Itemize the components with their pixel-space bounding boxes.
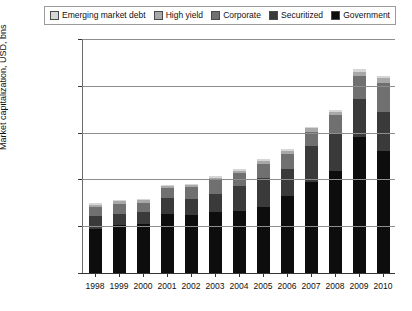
legend-item: Government	[331, 11, 390, 20]
legend-swatch-icon	[331, 11, 340, 20]
bar-segment	[257, 207, 270, 273]
stacked-bar[interactable]	[209, 176, 222, 273]
bar-segment	[113, 225, 126, 273]
bar-slot: 2001	[155, 39, 179, 273]
bar-segment	[305, 132, 318, 146]
bar-segment	[209, 194, 222, 212]
x-tick-mark	[191, 273, 192, 277]
x-tick-mark	[335, 273, 336, 277]
x-tick-mark	[119, 273, 120, 277]
bar-slot: 1998	[83, 39, 107, 273]
legend-item: Securitized	[269, 11, 323, 20]
bar-slot: 2010	[371, 39, 395, 273]
bar-slot: 2002	[179, 39, 203, 273]
bar-segment	[137, 224, 150, 273]
bar-segment	[185, 199, 198, 215]
bar-segment	[377, 151, 390, 273]
x-tick-mark	[239, 273, 240, 277]
stacked-bar[interactable]	[305, 127, 318, 273]
y-tick-mark	[78, 133, 82, 134]
gridline	[82, 39, 395, 40]
y-tick-mark	[78, 39, 82, 40]
x-tick-mark	[215, 273, 216, 277]
bar-slot: 2000	[131, 39, 155, 273]
bar-segment	[281, 169, 294, 196]
x-tick-label: 2009	[350, 282, 369, 291]
bar-slot: 2005	[251, 39, 275, 273]
legend-item: Emerging market debt	[50, 11, 146, 20]
bar-segment	[137, 212, 150, 225]
bar-slot: 2003	[203, 39, 227, 273]
y-tick-mark	[78, 273, 82, 274]
bar-segment	[137, 203, 150, 212]
bar-segment	[377, 83, 390, 112]
stacked-bar[interactable]	[377, 76, 390, 273]
chart-legend: Emerging market debtHigh yieldCorporateS…	[44, 6, 396, 25]
bar-slot: 2009	[347, 39, 371, 273]
y-tick-mark	[78, 226, 82, 227]
stacked-bar-chart: Emerging market debtHigh yieldCorporateS…	[0, 0, 412, 311]
x-tick-label: 2003	[206, 282, 225, 291]
x-tick-label: 2007	[302, 282, 321, 291]
bar-segment	[281, 154, 294, 169]
bar-slot: 2008	[323, 39, 347, 273]
bar-segment	[329, 115, 342, 133]
gridline	[82, 226, 395, 227]
legend-item-label: Emerging market debt	[62, 11, 146, 20]
stacked-bar[interactable]	[89, 203, 102, 273]
stacked-bar[interactable]	[113, 200, 126, 273]
x-tick-label: 2000	[134, 282, 153, 291]
bar-segment	[353, 76, 366, 99]
stacked-bar[interactable]	[281, 149, 294, 273]
bar-segment	[353, 99, 366, 137]
legend-swatch-icon	[211, 11, 220, 20]
legend-item-label: Securitized	[281, 11, 323, 20]
bar-segment	[257, 164, 270, 178]
bar-slot: 2007	[299, 39, 323, 273]
stacked-bar[interactable]	[353, 69, 366, 273]
bar-segment	[89, 207, 102, 216]
bar-segment	[329, 171, 342, 273]
legend-swatch-icon	[154, 11, 163, 20]
stacked-bar[interactable]	[233, 169, 246, 273]
bar-segment	[281, 196, 294, 273]
x-tick-mark	[143, 273, 144, 277]
legend-item-label: High yield	[166, 11, 203, 20]
bar-segment	[161, 188, 174, 197]
stacked-bar[interactable]	[161, 185, 174, 273]
x-tick-label: 1999	[110, 282, 129, 291]
y-tick-mark	[78, 86, 82, 87]
legend-swatch-icon	[50, 11, 59, 20]
stacked-bar[interactable]	[185, 184, 198, 273]
legend-item-label: Government	[343, 11, 390, 20]
bar-segment	[113, 214, 126, 226]
x-tick-mark	[359, 273, 360, 277]
stacked-bar[interactable]	[137, 199, 150, 273]
bar-segment	[257, 178, 270, 208]
legend-item: Corporate	[211, 11, 261, 20]
x-tick-mark	[263, 273, 264, 277]
x-tick-mark	[167, 273, 168, 277]
bar-segment	[233, 211, 246, 273]
stacked-bar[interactable]	[329, 110, 342, 273]
stacked-bar[interactable]	[257, 159, 270, 273]
x-tick-mark	[287, 273, 288, 277]
bar-segment	[185, 215, 198, 274]
x-tick-label: 1998	[86, 282, 105, 291]
bar-segment	[185, 187, 198, 198]
bar-segment	[161, 214, 174, 273]
x-tick-mark	[311, 273, 312, 277]
bar-group: 1998199920002001200220032004200520062007…	[83, 39, 395, 273]
bar-segment	[113, 204, 126, 214]
bar-segment	[305, 182, 318, 273]
x-tick-label: 2002	[182, 282, 201, 291]
y-axis-title: Market capitalization, USD, bns	[0, 24, 8, 150]
legend-item-label: Corporate	[223, 11, 261, 20]
x-tick-mark	[95, 273, 96, 277]
bar-segment	[329, 133, 342, 171]
bar-segment	[209, 180, 222, 194]
bar-segment	[209, 212, 222, 273]
x-tick-label: 2010	[374, 282, 393, 291]
bar-segment	[353, 137, 366, 273]
y-tick-mark	[78, 179, 82, 180]
